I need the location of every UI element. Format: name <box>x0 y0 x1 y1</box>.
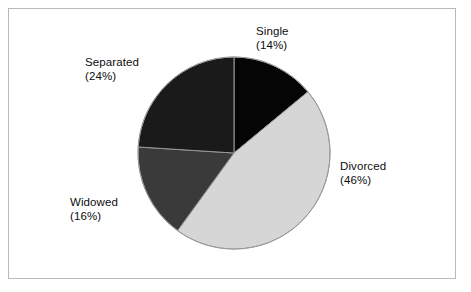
pie-label-divorced-percent: (46%) <box>340 174 386 188</box>
pie-label-single-percent: (14%) <box>256 39 289 53</box>
pie-slices <box>138 57 330 249</box>
pie-label-single: Single (14%) <box>256 25 289 52</box>
pie-label-widowed: Widowed (16%) <box>70 196 118 223</box>
pie-label-separated: Separated (24%) <box>85 56 139 83</box>
pie-label-widowed-name: Widowed <box>70 196 118 210</box>
pie-label-widowed-percent: (16%) <box>70 210 118 224</box>
pie-label-separated-percent: (24%) <box>85 70 139 84</box>
pie-chart-canvas <box>0 0 471 292</box>
pie-label-divorced: Divorced (46%) <box>340 160 386 187</box>
pie-label-single-name: Single <box>256 25 289 39</box>
pie-label-separated-name: Separated <box>85 56 139 70</box>
pie-label-divorced-name: Divorced <box>340 160 386 174</box>
pie-slice-separated[interactable] <box>138 57 234 153</box>
pie-chart-figure: Single (14%) Divorced (46%) Separated (2… <box>0 0 471 292</box>
